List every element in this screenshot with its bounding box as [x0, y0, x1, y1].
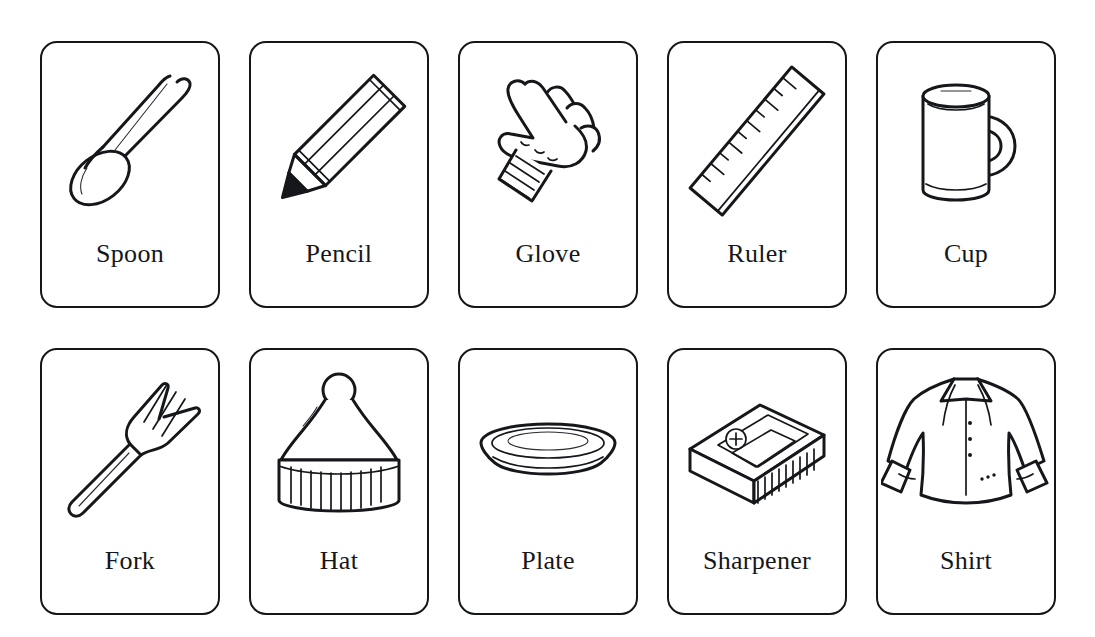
card-label: Fork	[42, 546, 218, 613]
pencil-icon	[251, 43, 427, 239]
flashcard-hat: Hat	[249, 348, 429, 615]
flashcard-plate: Plate	[458, 348, 638, 615]
flashcard-shirt: Shirt	[876, 348, 1056, 615]
card-label: Plate	[460, 546, 636, 613]
card-label: Shirt	[878, 546, 1054, 613]
card-label: Glove	[460, 239, 636, 306]
flashcard-spoon[interactable]: Spoon	[40, 41, 220, 308]
flashcard-pencil[interactable]: Pencil	[249, 41, 429, 308]
card-label: Spoon	[42, 239, 218, 306]
flashcard-fork: Fork	[40, 348, 220, 615]
ruler-icon	[669, 43, 845, 239]
sharpener-icon	[669, 350, 845, 546]
flashcard-grid: Spoon Pencil	[0, 0, 1095, 637]
card-label: Sharpener	[669, 546, 845, 613]
shirt-icon	[878, 350, 1054, 546]
card-label: Cup	[878, 239, 1054, 306]
hat-icon	[251, 350, 427, 546]
fork-icon	[42, 350, 218, 546]
flashcard-sharpener: Sharpener	[667, 348, 847, 615]
card-label: Ruler	[669, 239, 845, 306]
flashcard-cup: Cup	[876, 41, 1056, 308]
card-label: Hat	[251, 546, 427, 613]
plate-icon	[460, 350, 636, 546]
cup-icon	[878, 43, 1054, 239]
flashcard-glove: Glove	[458, 41, 638, 308]
card-label: Pencil	[251, 239, 427, 306]
spoon-icon	[42, 43, 218, 239]
glove-icon	[460, 43, 636, 239]
flashcard-ruler: Ruler	[667, 41, 847, 308]
